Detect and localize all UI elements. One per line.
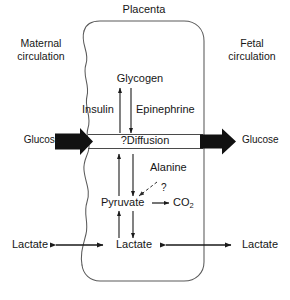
- glucose-fetal-efflux-arrow: [200, 129, 236, 155]
- pyruvate-label: Pyruvate: [101, 196, 144, 209]
- alanine-label: Alanine: [150, 161, 187, 174]
- lactate-placental-label: Lactate: [116, 238, 152, 251]
- co2-formula: CO: [173, 196, 190, 208]
- epinephrine-label: Epinephrine: [136, 103, 195, 116]
- maternal-circulation-label: Maternal circulation: [2, 37, 80, 63]
- alanine-question-mark-label: ?: [161, 182, 167, 194]
- fetal-circulation-line1: Fetal: [240, 37, 263, 49]
- insulin-label: Insulin: [82, 103, 114, 116]
- alanine-to-pyruvate-dashed-arrow: [139, 182, 157, 196]
- co2-label: CO2: [173, 196, 194, 210]
- co2-subscript: 2: [190, 201, 194, 210]
- glycogen-label: Glycogen: [117, 72, 163, 85]
- lactate-fetal-label: Lactate: [242, 238, 278, 251]
- diagram-canvas: Placenta Maternal circulation Fetal circ…: [0, 0, 290, 300]
- diffusion-label: ?Diffusion: [121, 134, 170, 147]
- fetal-circulation-label: Fetal circulation: [213, 37, 290, 63]
- fetal-circulation-line2: circulation: [228, 50, 275, 62]
- glucose-maternal-label: Glucose: [24, 134, 61, 146]
- maternal-circulation-line2: circulation: [17, 50, 64, 62]
- maternal-circulation-line1: Maternal: [21, 37, 62, 49]
- lactate-maternal-label: Lactate: [12, 238, 48, 251]
- glucose-fetal-label: Glucose: [242, 134, 279, 146]
- placenta-title: Placenta: [123, 3, 166, 16]
